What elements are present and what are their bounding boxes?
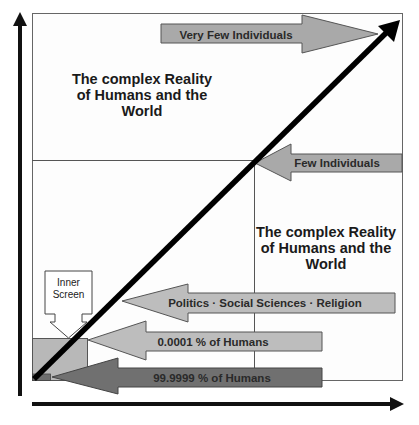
- arrow-label-few: Few Individuals: [294, 157, 380, 169]
- upper-text-line3: World: [122, 103, 163, 119]
- lower-text-line2: of Humans and the: [261, 240, 392, 256]
- y-axis-arrow: [13, 12, 27, 396]
- upper-text-line1: The complex Reality: [72, 71, 212, 87]
- upper-text-line2: of Humans and the: [77, 87, 208, 103]
- diagram-canvas: Very Few Individuals Few Individuals Pol…: [0, 0, 419, 425]
- inner-screen-label-line2: Screen: [53, 289, 85, 300]
- arrow-label-politics: Politics · Social Sciences · Religion: [168, 297, 362, 309]
- lower-text-line1: The complex Reality: [256, 224, 396, 240]
- lower-text-line3: World: [306, 256, 347, 272]
- arrow-label-small-pct: 0.0001 % of Humans: [157, 336, 268, 348]
- arrow-label-majority: 99.9999 % of Humans: [153, 372, 271, 384]
- inner-screen-label-line1: Inner: [57, 277, 80, 288]
- x-axis-arrow: [32, 397, 404, 411]
- arrow-label-very-few: Very Few Individuals: [179, 29, 292, 41]
